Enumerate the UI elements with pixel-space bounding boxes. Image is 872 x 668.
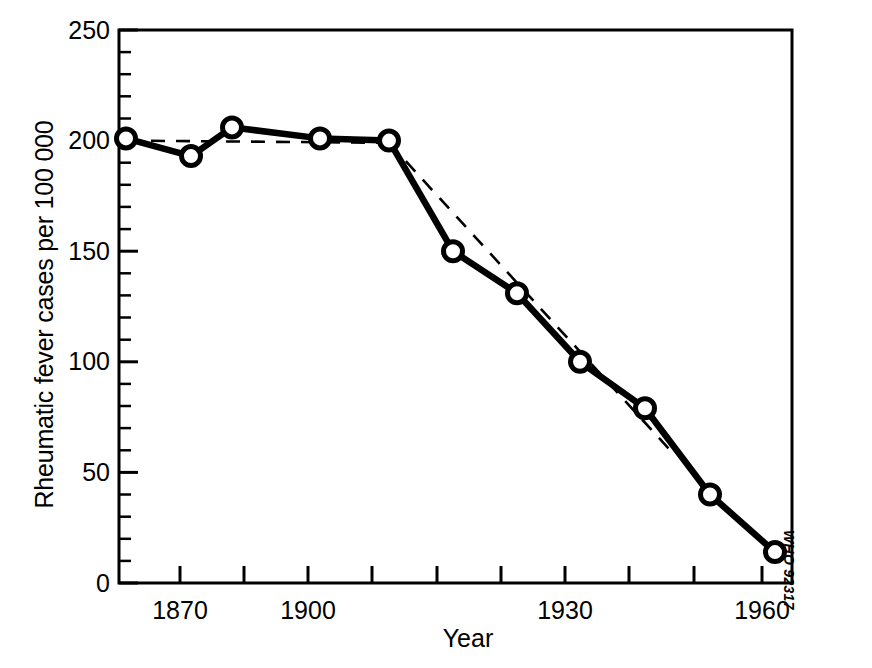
who-credit-label: WHO 92317 [781,530,797,650]
data-point [182,147,201,166]
data-point [380,131,399,150]
data-point [444,242,463,261]
data-point-markers [117,118,785,562]
y-tick-label-250: 250 [34,18,110,43]
y-tick-label-0: 0 [34,571,110,596]
y-axis-major-ticks [119,30,138,583]
data-point [223,118,242,137]
chart-figure: 250 200 150 100 50 0 1870 1900 1930 1960… [0,0,872,668]
y-axis-title: Rheumatic fever cases per 100 000 [30,65,59,565]
x-axis-major-ticks [180,566,762,583]
x-tick-label-1900: 1900 [248,596,368,624]
data-point [571,352,590,371]
data-point [117,129,136,148]
trend-line-decline [389,143,670,450]
data-point [311,129,330,148]
data-point [701,485,720,504]
plot-frame [119,30,792,583]
data-point [636,399,655,418]
line-chart-plot [0,0,872,668]
x-axis-title: Year [118,624,818,653]
x-tick-label-1930: 1930 [505,596,625,624]
data-line [126,127,775,552]
x-tick-label-1870: 1870 [120,596,240,624]
x-tick-label-1960: 1960 [702,596,822,624]
data-point [508,284,527,303]
